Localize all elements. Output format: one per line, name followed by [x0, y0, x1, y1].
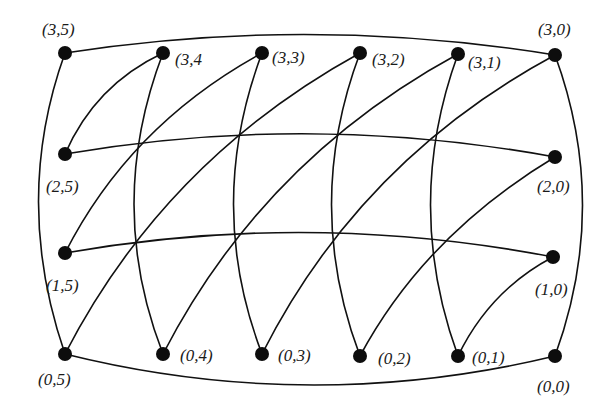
edge-3-5-to-0-5 [39, 53, 66, 354]
node-1-0 [546, 250, 560, 264]
node-label-2-0: (2,0) [537, 177, 570, 196]
node-label-3-5: (3,5) [42, 20, 75, 39]
node-label-0-5: (0,5) [38, 370, 71, 389]
edge-1-5-to-1-0 [65, 232, 553, 257]
graph-labels: (3,5)(3,4(3,3)(3,2)(3,1)(3,0)(2,5)(2,0)(… [38, 20, 571, 396]
edge-1-0-to-0-1 [458, 257, 553, 356]
node-label-2-5: (2,5) [46, 177, 79, 196]
node-0-0 [548, 349, 562, 363]
node-label-0-2: (0,2) [378, 349, 411, 368]
node-label-3-3: (3,3) [272, 48, 305, 67]
node-0-4 [156, 347, 170, 361]
edge-3-3-to-1-5 [65, 53, 262, 253]
node-label-3-4: (3,4 [175, 50, 202, 69]
node-label-1-0: (1,0) [535, 280, 568, 299]
node-0-3 [255, 347, 269, 361]
node-label-0-4: (0,4) [180, 346, 213, 365]
node-label-3-2: (3,2) [372, 50, 405, 69]
edge-3-3-to-0-3 [234, 53, 263, 354]
edge-3-0-to-0-3 [262, 55, 555, 354]
node-label-0-0: (0,0) [537, 377, 570, 396]
node-label-0-3: (0,3) [278, 346, 311, 365]
edge-3-1-to-0-4 [163, 54, 458, 354]
node-0-5 [58, 347, 72, 361]
edge-3-2-to-0-5 [65, 53, 360, 354]
node-2-5 [58, 147, 72, 161]
edge-3-0-to-0-0 [555, 55, 583, 356]
edge-3-1-to-0-1 [431, 54, 459, 356]
edge-2-0-to-0-2 [360, 157, 555, 356]
node-label-1-5: (1,5) [46, 276, 79, 295]
edge-3-2-to-0-2 [332, 53, 361, 356]
node-0-2 [353, 349, 367, 363]
edge-3-5-to-3-0 [65, 34, 555, 55]
torus-grid-graph: (3,5)(3,4(3,3)(3,2)(3,1)(3,0)(2,5)(2,0)(… [0, 0, 605, 412]
node-label-3-1: (3,1) [468, 53, 501, 72]
node-3-2 [353, 46, 367, 60]
node-1-5 [58, 246, 72, 260]
graph-edges [39, 34, 583, 385]
node-3-1 [451, 47, 465, 61]
node-3-0 [548, 48, 562, 62]
node-label-0-1: (0,1) [472, 348, 505, 367]
node-3-4 [156, 46, 170, 60]
node-2-0 [548, 150, 562, 164]
node-label-3-0: (3,0) [538, 20, 571, 39]
node-3-5 [58, 46, 72, 60]
edge-3-4-to-2-5 [65, 53, 163, 154]
node-3-3 [255, 46, 269, 60]
edge-3-4-to-0-4 [134, 53, 163, 354]
node-0-1 [451, 349, 465, 363]
